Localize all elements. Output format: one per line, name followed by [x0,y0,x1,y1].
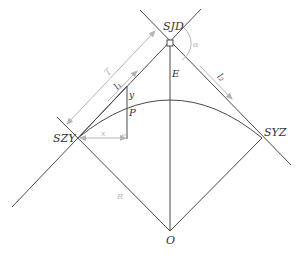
label-szy: SZY [53,132,77,145]
label-sjd: SJD [163,20,184,33]
curve-diagram: SJD SZY SYZ O P E y l₁ l₂ T x R α [0,0,297,258]
sjd-point-marker [167,40,173,46]
label-r: R [116,192,123,201]
label-l1: l₁ [112,80,124,92]
right-tangent-line [140,10,291,165]
label-e: E [171,68,180,79]
label-x: x [101,129,106,138]
label-y: y [128,90,135,100]
label-l2: l₂ [215,71,227,83]
label-alpha: α [193,40,199,49]
label-syz: SYZ [264,126,287,139]
label-p: P [128,107,136,118]
dimension-l2 [200,66,232,99]
label-o: O [166,234,175,247]
radius-line-right [170,138,262,231]
dimension-t [67,31,155,124]
